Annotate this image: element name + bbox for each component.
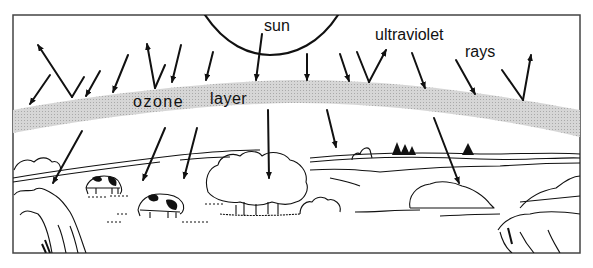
ozone-diagram: sun ultraviolet rays ozone layer: [0, 0, 593, 268]
label-ozone: ozone: [133, 93, 184, 110]
label-ultraviolet: ultraviolet: [375, 26, 444, 43]
label-rays: rays: [465, 43, 495, 60]
label-layer: layer: [210, 90, 247, 107]
label-sun: sun: [264, 17, 290, 34]
